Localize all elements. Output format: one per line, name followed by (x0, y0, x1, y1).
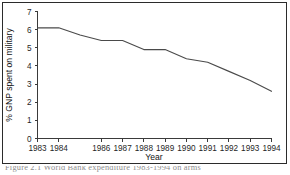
x-tick-label: 1991 (199, 144, 218, 153)
y-tick-label: 6 (27, 26, 32, 35)
y-axis-ticks: 01234567 (27, 8, 38, 144)
x-tick-label: 1984 (50, 144, 69, 153)
y-axis-title: % GNP spent on military (4, 28, 14, 122)
x-axis-ticks: 1983198419861987198819891990199119921993… (28, 139, 281, 153)
x-tick-label: 1994 (262, 144, 281, 153)
x-tick-label: 1992 (220, 144, 239, 153)
y-tick-label: 0 (27, 135, 32, 144)
figure-caption: Figure 2.1 World Bank expenditure 1983-1… (5, 166, 201, 172)
x-tick-label: 1993 (241, 144, 260, 153)
y-tick-label: 5 (27, 44, 32, 53)
line-chart: 01234567 1983198419861987198819891990199… (0, 0, 290, 165)
x-axis: 1983198419861987198819891990199119921993… (28, 139, 281, 153)
x-tick-label: 1983 (28, 144, 47, 153)
x-tick-label: 1990 (177, 144, 196, 153)
x-tick-label: 1987 (113, 144, 132, 153)
data-series-line (38, 28, 272, 92)
figure-container: 01234567 1983198419861987198819891990199… (0, 0, 290, 175)
y-tick-label: 2 (27, 98, 32, 107)
y-axis: 01234567 (27, 8, 38, 144)
figure-caption-strip: Figure 2.1 World Bank expenditure 1983-1… (2, 166, 287, 175)
x-axis-title: Year (145, 152, 163, 162)
y-tick-label: 4 (27, 62, 32, 71)
x-tick-label: 1986 (92, 144, 111, 153)
y-tick-label: 1 (27, 116, 32, 125)
y-tick-label: 7 (27, 8, 32, 17)
y-tick-label: 3 (27, 80, 32, 89)
